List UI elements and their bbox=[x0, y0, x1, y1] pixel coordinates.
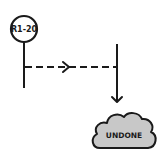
cloud-label: UNDONE bbox=[106, 131, 142, 140]
commit-label: R1-20 bbox=[11, 25, 38, 34]
dashed-edge bbox=[25, 62, 117, 72]
diagram-canvas: R1-20 UNDONE bbox=[0, 0, 162, 163]
commit-node: R1-20 bbox=[11, 16, 38, 42]
down-edge bbox=[112, 88, 122, 102]
cloud-node: UNDONE bbox=[93, 113, 156, 148]
